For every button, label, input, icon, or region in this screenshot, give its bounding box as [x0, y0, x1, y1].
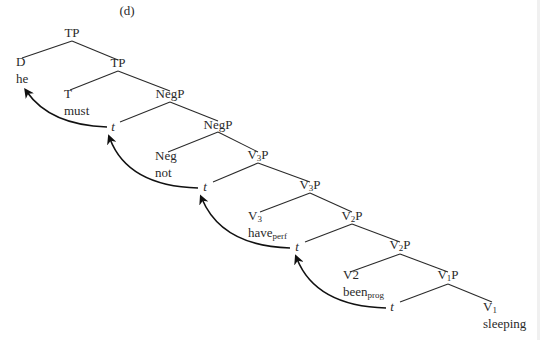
tree-node-v3: V3haveperf [248, 209, 287, 240]
node-category: D [16, 55, 28, 69]
tree-node-trace1: t [111, 120, 115, 134]
node-category: t [295, 240, 299, 254]
node-category: t [203, 180, 207, 194]
tree-node-trace2: t [203, 180, 207, 194]
figure-label: (d) [119, 4, 134, 18]
node-category: V3 [248, 209, 287, 223]
node-word: he [16, 72, 28, 86]
node-category: t [390, 300, 394, 314]
node-category: V2 [343, 268, 384, 282]
node-category: NegP [204, 118, 233, 132]
tree-node-negp1: NegP [156, 87, 185, 101]
node-category: V2P [341, 209, 362, 223]
tree-node-neg: Negnot [155, 149, 177, 180]
node-category: Neg [155, 149, 177, 163]
tree-branch [120, 102, 170, 122]
syntax-tree-diagram: (d) TPDheTPTmustNegPtNegPNegnotV3PtV3PV3… [0, 0, 540, 340]
tree-branch [305, 224, 352, 242]
node-word: sleeping [483, 317, 526, 331]
node-category: V1P [437, 268, 458, 282]
movement-arrow [110, 139, 198, 188]
tree-node-d: Dhe [16, 55, 28, 86]
node-category: V3P [299, 178, 320, 192]
node-word: haveperf [248, 226, 287, 240]
node-category: V2P [389, 238, 410, 252]
tree-node-v2: V2beenprog [343, 268, 384, 299]
tree-node-t_head: Tmust [64, 87, 89, 118]
tree-node-trace4: t [390, 300, 394, 314]
tree-node-negp2: NegP [204, 118, 233, 132]
tree-branches [0, 0, 540, 340]
tree-node-v3p1: V3P [247, 148, 268, 162]
tree-edges [22, 41, 492, 302]
tree-branch [400, 284, 448, 302]
tree-node-tp1: TP [64, 26, 79, 40]
node-category: TP [64, 26, 79, 40]
tree-node-v3p2: V3P [299, 178, 320, 192]
node-word: must [64, 104, 89, 118]
node-word: beenprog [343, 285, 384, 299]
tree-branch [22, 41, 72, 58]
tree-node-trace3: t [295, 240, 299, 254]
node-category: V1 [483, 300, 526, 314]
node-category: t [111, 120, 115, 134]
tree-node-v1p: V1P [437, 268, 458, 282]
node-word: not [155, 166, 177, 180]
tree-node-v2p1: V2P [341, 209, 362, 223]
tree-branch [213, 163, 258, 182]
node-category: T [64, 87, 89, 101]
tree-node-v1: V1sleeping [483, 300, 526, 331]
tree-node-v2p2: V2P [389, 238, 410, 252]
node-category: TP [110, 56, 125, 70]
node-category: NegP [156, 87, 185, 101]
node-category: V3P [247, 148, 268, 162]
tree-node-tp2: TP [110, 56, 125, 70]
